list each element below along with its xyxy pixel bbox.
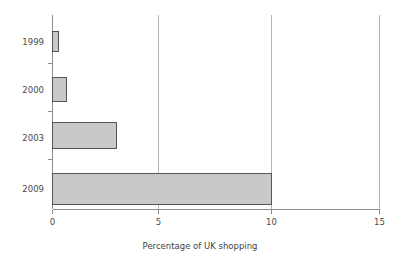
x-tick-label-15: 15 (374, 217, 385, 227)
bar-chart: 1999 2000 2003 2009 0 5 10 15 Percentage… (0, 0, 404, 261)
x-tick-label-10: 10 (266, 217, 277, 227)
bar-2003 (53, 123, 117, 149)
bar-2009 (53, 174, 272, 205)
y-tick-label-2003: 2003 (22, 133, 44, 143)
y-tick-label-2000: 2000 (22, 85, 44, 95)
x-axis-title: Percentage of UK shopping (143, 241, 258, 251)
bar-2000 (53, 78, 67, 102)
y-tick-label-1999: 1999 (22, 37, 44, 47)
x-tick-label-5: 5 (156, 217, 161, 227)
chart-plot-area: 1999 2000 2003 2009 0 5 10 15 Percentage… (0, 0, 404, 261)
x-tick-label-0: 0 (50, 217, 55, 227)
y-tick-label-2009: 2009 (22, 184, 44, 194)
bar-1999 (53, 32, 59, 52)
